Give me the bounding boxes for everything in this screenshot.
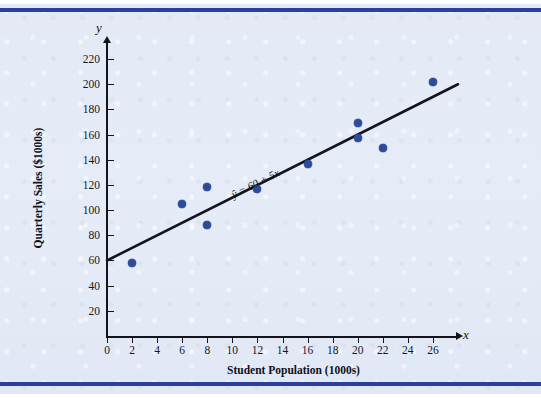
x-axis-title: Student Population (1000s) [0, 364, 541, 376]
regression-line [0, 0, 541, 398]
data-point [178, 200, 186, 208]
data-point [354, 119, 362, 127]
figure-root: 02468101214161820222426 2040608010012014… [0, 0, 541, 398]
y-axis-variable-label: y [96, 20, 102, 36]
x-axis-variable-label: x [463, 327, 469, 343]
scatter-plot: 02468101214161820222426 2040608010012014… [0, 0, 541, 398]
data-point [128, 259, 136, 267]
y-axis-title: Quarterly Sales ($1000s) [32, 108, 44, 268]
data-point [429, 78, 437, 86]
data-point [304, 160, 312, 168]
